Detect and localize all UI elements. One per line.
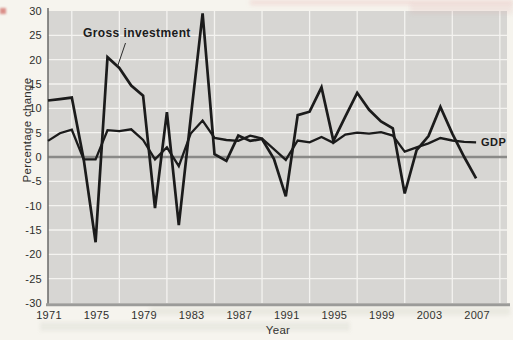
y-tick-label: 25 (29, 29, 42, 41)
x-tick-label: 1995 (322, 309, 348, 321)
y-axis-title: Percentage change (21, 78, 33, 183)
y-tick-label: 30 (29, 5, 42, 17)
x-tick-label: 1983 (179, 309, 205, 321)
x-tick-label: 1975 (84, 309, 110, 321)
y-tick-label: 20 (29, 54, 42, 66)
chart-figure: 302520151050-5-10-15-20-25-30 1971197519… (0, 0, 513, 340)
line-chart: 302520151050-5-10-15-20-25-30 1971197519… (0, 0, 513, 340)
x-tick-label: 1971 (36, 309, 62, 321)
x-tick-label: 2007 (464, 309, 490, 321)
y-tick-label: 0 (36, 151, 42, 163)
gdp-label: GDP (481, 136, 506, 148)
x-tick-label: 1999 (369, 309, 395, 321)
y-tick-label: -25 (25, 273, 42, 285)
y-tick-label: -20 (25, 248, 42, 260)
gross-investment-label: Gross investment (83, 26, 191, 40)
x-tick-label: 1987 (226, 309, 252, 321)
x-tick-label: 1991 (274, 309, 300, 321)
y-tick-label: -10 (25, 200, 42, 212)
y-tick-label: -30 (25, 297, 42, 309)
x-tick-label: 1979 (131, 309, 157, 321)
x-tick-label: 2003 (417, 309, 443, 321)
y-tick-label: -5 (32, 175, 42, 187)
y-tick-label: 5 (36, 127, 42, 139)
y-tick-label: -15 (25, 224, 42, 236)
x-axis-title: Year (266, 324, 290, 336)
x-tick-labels: 1971197519791983198719911995199920032007 (36, 309, 490, 321)
